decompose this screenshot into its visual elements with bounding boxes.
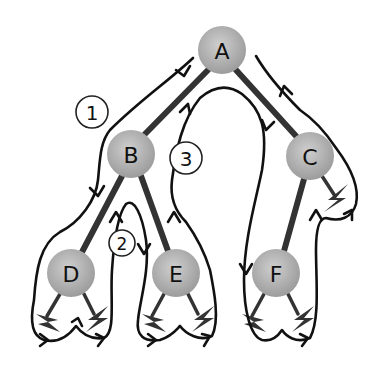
arrow-icon [96, 334, 104, 346]
step-marker-3: 3 [170, 142, 202, 174]
arrow-icon [180, 104, 190, 114]
edge-a-b [145, 70, 208, 134]
edge-c-f [284, 179, 304, 251]
step-label: 1 [86, 101, 99, 125]
arrow-icon [240, 264, 252, 274]
step-label: 3 [180, 147, 193, 171]
arrow-icon [310, 210, 322, 220]
step-marker-1: 1 [76, 96, 108, 128]
step-label: 2 [117, 234, 128, 254]
node-e: E [152, 249, 200, 297]
node-label: F [270, 262, 283, 287]
node-d: D [47, 249, 95, 297]
null-bolt-icon [242, 314, 266, 332]
null-bolt-icon [324, 184, 348, 212]
node-label: C [302, 145, 317, 170]
node-b: B [107, 130, 155, 178]
arrow-icon [72, 318, 82, 326]
node-c: C [286, 132, 334, 180]
node-label: D [63, 262, 80, 287]
step-marker-2: 2 [109, 230, 135, 256]
node-label: A [214, 39, 229, 64]
node-a: A [198, 26, 246, 74]
null-bolt-icon [86, 306, 108, 332]
tree-traversal-diagram: A B C D E F 1 2 [0, 0, 383, 366]
node-label: B [123, 143, 138, 168]
node-label: E [169, 262, 183, 287]
null-bolt-icon [142, 314, 166, 332]
arrow-icon [202, 334, 210, 346]
node-f: F [252, 249, 300, 297]
edge-a-c [236, 70, 296, 136]
